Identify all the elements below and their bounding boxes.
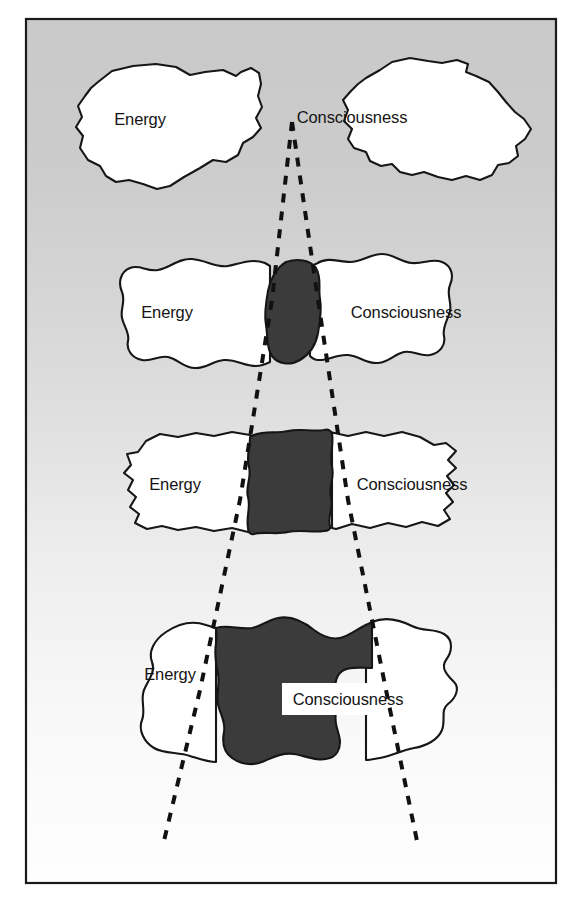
row-3-overlap-region [247,430,333,535]
row-2-overlap-region [265,260,321,363]
row-2-consciousness-label: Consciousness [351,303,462,321]
row-1-consciousness-label: Consciousness [297,108,408,126]
row-1-energy-label: Energy [114,110,167,128]
overlap-progression-diagram: Energy Consciousness Energy Consciousnes… [0,0,584,905]
row-4-energy-label: Energy [144,665,197,683]
row-2-energy-label: Energy [141,303,194,321]
row-3-energy-label: Energy [149,475,202,493]
row-3-consciousness-label: Consciousness [357,475,468,493]
figure-container: Energy Consciousness Energy Consciousnes… [0,0,584,905]
row-3-group: Energy Consciousness [124,430,467,535]
row-4-group: Energy Consciousness [141,617,457,764]
row-2-group: Energy Consciousness [120,254,461,368]
